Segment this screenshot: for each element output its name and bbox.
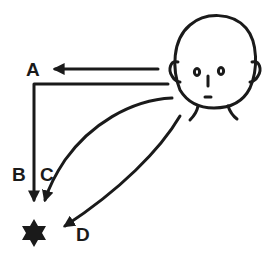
face-icon [170, 16, 260, 120]
label-c: C [40, 164, 54, 185]
left-eye [194, 69, 199, 76]
star-icon [22, 219, 46, 247]
arrow-c [45, 98, 172, 200]
arrow-d [65, 116, 180, 226]
neck-right [228, 106, 237, 119]
diagram-canvas: A B C D [0, 0, 267, 255]
neck-left [190, 106, 198, 120]
label-b: B [12, 164, 26, 185]
right-eye [218, 68, 223, 75]
label-d: D [76, 224, 90, 245]
label-a: A [26, 59, 40, 80]
